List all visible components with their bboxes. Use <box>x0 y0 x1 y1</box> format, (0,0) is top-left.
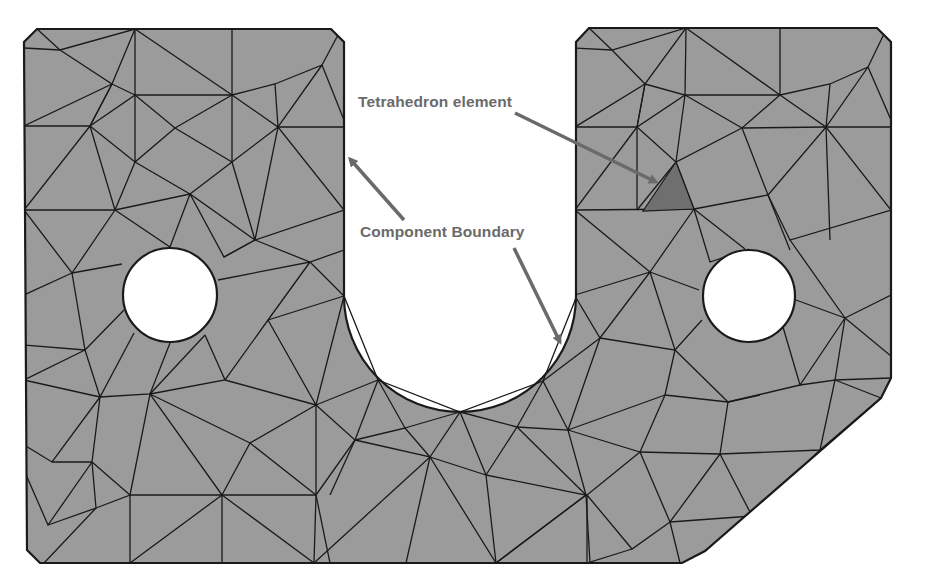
boundary-arrow-right <box>514 248 560 342</box>
left-hole <box>123 248 217 342</box>
right-hole <box>703 250 795 342</box>
component-boundary-label: Component Boundary <box>360 223 525 241</box>
fem-mesh-diagram <box>0 0 925 585</box>
boundary-arrow-left <box>350 159 404 220</box>
tetrahedron-element-label: Tetrahedron element <box>358 93 512 111</box>
